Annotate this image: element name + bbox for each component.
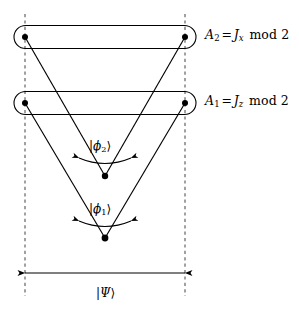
state-label-psi-bar-right: ⟩: [111, 286, 116, 300]
node-apex-inner: [102, 173, 108, 179]
edge-lower-left-to-outer-apex: [25, 103, 105, 238]
node-upper-left: [22, 34, 28, 40]
physics-diagram: A2=Jxmod 2 A1=Jzmod 2 |ϕ2⟩ |ϕ1⟩ |Ψ⟩: [0, 0, 299, 311]
state-label-phi1: |ϕ1⟩: [89, 203, 111, 216]
state-label-phi2: |ϕ2⟩: [89, 140, 111, 153]
state-label-psi-symbol: Ψ: [100, 286, 111, 300]
state-label-phi1-symbol: ϕ: [93, 202, 101, 216]
edge-upper-left-to-inner-apex: [25, 37, 105, 176]
state-label-psi: |Ψ⟩: [96, 287, 115, 299]
operator-label-a1-modulus: mod 2: [243, 93, 288, 108]
operator-label-a1-equals: =: [220, 93, 234, 108]
operator-label-a2: A2=Jxmod 2: [205, 29, 289, 43]
inner-triangle-edges: [25, 37, 185, 176]
operator-label-a2-modulus: mod 2: [244, 27, 289, 42]
angle-arc-phi1: [79, 221, 131, 227]
angle-arc-phi2: [79, 158, 131, 164]
node-apex-outer: [102, 235, 109, 242]
operator-label-a1-subscript: 1: [214, 99, 220, 109]
edge-upper-right-to-inner-apex: [105, 37, 185, 176]
node-lower-left: [22, 100, 28, 106]
outer-triangle-edges: [25, 103, 185, 238]
operator-label-a1-symbol: A: [205, 93, 214, 108]
operator-label-a1: A1=Jzmod 2: [205, 95, 289, 109]
diagram-canvas: [0, 0, 299, 311]
state-label-phi2-symbol: ϕ: [93, 139, 101, 153]
operator-label-a2-symbol: A: [205, 27, 214, 42]
group-outline-upper: [14, 26, 196, 49]
dashed-guide-lines: [25, 14, 185, 296]
node-upper-right: [182, 34, 188, 40]
node-lower-right: [182, 100, 188, 106]
state-label-phi1-bar-right: ⟩: [106, 202, 111, 216]
operator-label-a2-equals: =: [220, 27, 234, 42]
state-label-phi2-bar-right: ⟩: [106, 139, 111, 153]
group-outline-lower: [14, 92, 196, 115]
operator-label-a2-subscript: 2: [214, 33, 220, 43]
edge-lower-right-to-outer-apex: [105, 103, 185, 238]
